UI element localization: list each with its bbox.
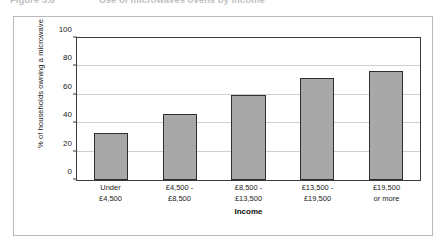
x-axis-category-label-line: £19,500 [352,183,421,194]
x-axis-category-label: £19,500or more [352,183,421,204]
x-axis-category-label-line: £4,500 - [145,183,214,194]
x-axis-category-label-line: £8,500 [145,194,214,205]
figure-caption: Figure 3.8Use of microwaves ovens by inc… [0,0,446,9]
bar[interactable] [163,114,197,180]
bar-slot [77,38,146,180]
figure-caption-text: Use of microwaves ovens by income [99,0,265,5]
x-axis-category-labels: Under£4,500£4,500 -£8,500£8,500 -£13,500… [76,183,421,204]
y-axis-title: % of households owning a microwave [36,14,45,154]
y-tick-label: 80 [63,53,72,62]
bar-slot [283,38,352,180]
bar-series [77,38,420,180]
x-axis-category-label: Under£4,500 [76,183,145,204]
y-tick-label: 100 [59,25,72,34]
bar[interactable] [369,71,403,180]
x-axis-category-label: £4,500 -£8,500 [145,183,214,204]
y-tick-label: 40 [63,110,72,119]
y-tick-label: 0 [68,167,72,176]
bar-slot [351,38,420,180]
x-axis-category-label-line: £4,500 [76,194,145,205]
x-axis-category-label-line: £8,500 - [214,183,283,194]
x-axis-category-label: £8,500 -£13,500 [214,183,283,204]
figure-caption-number: Figure 3.8 [10,0,55,5]
y-tick-label: 60 [63,81,72,90]
plot-area: 020406080100 [76,37,421,181]
x-axis-category-label-line: £19,500 [283,194,352,205]
bar[interactable] [231,95,265,180]
x-axis-category-label-line: £13,500 [214,194,283,205]
x-axis-category-label: £13,500 -£19,500 [283,183,352,204]
y-tick-label: 20 [63,138,72,147]
bar-slot [146,38,215,180]
bar-slot [214,38,283,180]
x-axis-category-label-line: Under [76,183,145,194]
x-axis-category-label-line: £13,500 - [283,183,352,194]
figure-frame: % of households owning a microwave 02040… [13,16,433,236]
x-axis-title: Income [76,207,421,216]
x-axis-category-label-line: or more [352,194,421,205]
bar[interactable] [300,78,334,180]
bar[interactable] [94,133,128,180]
